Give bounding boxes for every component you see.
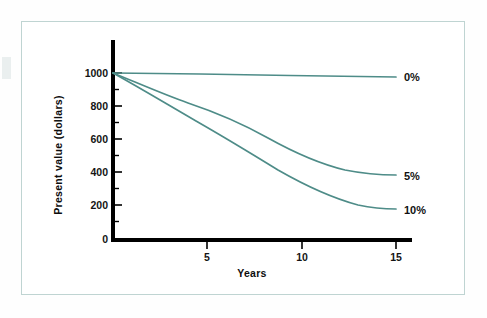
series-label-0pct: 0% <box>404 71 420 83</box>
series-label-10pct: 10% <box>404 204 426 216</box>
x-tick-label-15: 15 <box>390 251 402 263</box>
series-line-10pct <box>113 73 396 209</box>
y-tick-label-1000: 1000 <box>85 67 109 79</box>
chart-svg: 1000 800 600 400 200 0 5 10 15 Years Pre… <box>0 0 487 318</box>
x-tick-label-5: 5 <box>204 251 210 263</box>
series-line-5pct <box>113 73 396 175</box>
y-tick-label-800: 800 <box>90 100 108 112</box>
x-tick-label-10: 10 <box>296 251 308 263</box>
x-axis-title: Years <box>237 267 267 279</box>
series-group <box>113 73 396 209</box>
y-tick-label-0: 0 <box>102 233 108 245</box>
y-tick-label-200: 200 <box>90 199 108 211</box>
y-axis-title: Present value (dollars) <box>52 95 64 215</box>
y-tick-label-400: 400 <box>90 166 108 178</box>
figure-canvas: 1000 800 600 400 200 0 5 10 15 Years Pre… <box>0 0 487 318</box>
series-line-0pct <box>113 73 396 77</box>
series-label-5pct: 5% <box>404 170 420 182</box>
axes-group <box>111 40 412 240</box>
y-tick-label-600: 600 <box>90 133 108 145</box>
